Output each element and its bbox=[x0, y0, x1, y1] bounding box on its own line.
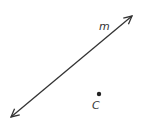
diagram-canvas: m C bbox=[0, 0, 141, 120]
line-label-m: m bbox=[99, 21, 110, 32]
point-label-c: C bbox=[92, 100, 100, 111]
point-c-dot bbox=[97, 92, 101, 96]
line-m bbox=[11, 16, 132, 117]
diagram-svg bbox=[0, 0, 141, 120]
